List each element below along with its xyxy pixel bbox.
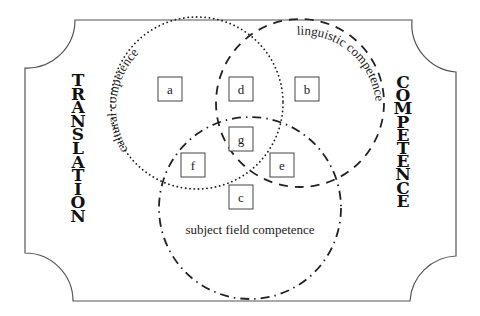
svg-text:a: a (167, 82, 173, 97)
translation-vertical-title: TRANSLATION (70, 70, 86, 226)
region-e: e (270, 153, 294, 177)
svg-text:g: g (238, 132, 245, 147)
translation-competence-diagram: cultural competence linguistic competenc… (0, 0, 480, 316)
subject-field-competence-label: subject field competence (185, 222, 314, 237)
svg-text:f: f (191, 158, 196, 173)
region-a: a (158, 77, 182, 101)
title-letter: N (70, 206, 86, 226)
svg-text:b: b (304, 82, 311, 97)
svg-text:d: d (238, 82, 245, 97)
region-f: f (181, 153, 205, 177)
region-d: d (229, 77, 253, 101)
competence-vertical-title: COMPETENCE (394, 72, 413, 211)
region-b: b (295, 77, 319, 101)
title-letter: E (397, 191, 410, 211)
svg-text:e: e (279, 158, 285, 173)
cultural-competence-label: cultural competence (104, 45, 141, 156)
region-g: g (229, 127, 253, 151)
region-c: c (229, 185, 253, 209)
frame (25, 20, 456, 301)
svg-text:c: c (238, 190, 244, 205)
